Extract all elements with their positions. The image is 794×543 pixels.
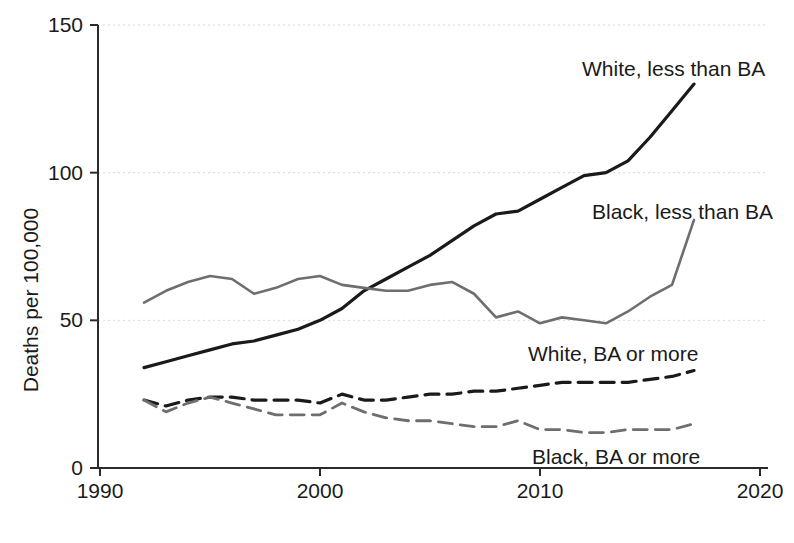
line-chart: 050100150 1990200020102020 Deaths per 10… — [0, 0, 794, 543]
x-tick-label: 2020 — [737, 479, 784, 502]
y-tick-label: 0 — [71, 456, 83, 479]
series-label-3: Black, BA or more — [532, 445, 700, 468]
series-line-3 — [144, 397, 694, 432]
axes-group — [98, 25, 768, 468]
x-tick-label: 2000 — [297, 479, 344, 502]
x-axis-ticks: 1990200020102020 — [77, 468, 784, 502]
series-label-0: White, less than BA — [582, 57, 765, 80]
y-tick-label: 150 — [48, 13, 83, 36]
y-axis-ticks: 050100150 — [48, 13, 98, 479]
series-labels-group: White, less than BABlack, less than BAWh… — [528, 57, 773, 468]
chart-container: 050100150 1990200020102020 Deaths per 10… — [0, 0, 794, 543]
series-line-0 — [144, 84, 694, 368]
x-tick-label: 2010 — [517, 479, 564, 502]
series-label-2: White, BA or more — [528, 342, 698, 365]
series-label-1: Black, less than BA — [592, 200, 773, 223]
gridlines-group — [98, 25, 768, 468]
y-tick-label: 100 — [48, 161, 83, 184]
x-tick-label: 1990 — [77, 479, 124, 502]
series-group — [144, 84, 694, 432]
series-line-1 — [144, 220, 694, 323]
y-axis-title: Deaths per 100,000 — [19, 208, 42, 392]
y-tick-label: 50 — [60, 308, 83, 331]
